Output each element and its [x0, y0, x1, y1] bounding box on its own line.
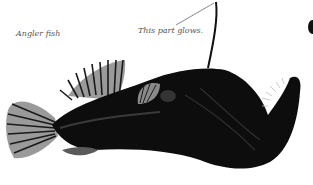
- glow-annotation-label: This part glows.: [138, 26, 203, 35]
- pelvic-fin: [62, 147, 98, 155]
- figure-canvas: Angler fish This part glows.: [0, 0, 313, 185]
- tail-fin: [6, 102, 58, 159]
- fish-eye-region: [160, 90, 176, 102]
- illicium-stalk: [208, 2, 217, 68]
- species-label: Angler fish: [16, 29, 60, 38]
- annotation-leader-line: [176, 3, 214, 25]
- cropped-edge-glyph: [308, 20, 313, 34]
